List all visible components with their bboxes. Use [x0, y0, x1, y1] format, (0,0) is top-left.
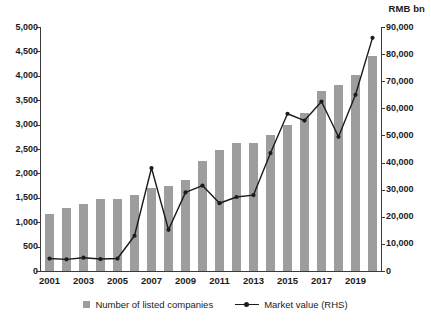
- left-axis-tick-label: 3,500: [15, 96, 38, 105]
- right-axis-tick-mark: [381, 244, 385, 245]
- left-axis-tick-label: 1,000: [15, 218, 38, 227]
- data-point-marker: [81, 256, 85, 260]
- x-axis-line: [40, 271, 382, 272]
- right-axis-tick-label: 10,000: [386, 239, 414, 248]
- left-axis-tick-mark: [36, 271, 40, 272]
- left-axis-tick-mark: [36, 125, 40, 126]
- x-axis-tick-label: 2017: [306, 276, 338, 286]
- left-axis-tick-mark: [36, 149, 40, 150]
- right-axis-tick-label: 90,000: [386, 23, 414, 32]
- data-point-marker: [166, 228, 170, 232]
- left-axis-tick-label: 4,000: [15, 71, 38, 80]
- right-axis-tick-label: 60,000: [386, 104, 414, 113]
- legend-label-market-value: Market value (RHS): [264, 299, 347, 310]
- chart-container: RMB bn 05001,0001,5002,0002,5003,0003,50…: [0, 0, 431, 326]
- x-axis-tick-label: 2011: [204, 276, 236, 286]
- data-point-marker: [302, 118, 306, 122]
- legend-item-market-value: Market value (RHS): [235, 299, 347, 310]
- market-value-polyline: [50, 38, 373, 260]
- data-point-marker: [149, 166, 153, 170]
- data-point-marker: [47, 256, 51, 260]
- plot-area: [41, 27, 381, 271]
- left-axis-tick-label: 2,000: [15, 169, 38, 178]
- right-axis-tick-mark: [381, 135, 385, 136]
- left-axis-tick-mark: [36, 76, 40, 77]
- x-axis-tick-label: 2005: [102, 276, 134, 286]
- right-axis-tick-label: 40,000: [386, 158, 414, 167]
- left-axis-tick-label: 1,500: [15, 193, 38, 202]
- right-axis-tick-mark: [381, 190, 385, 191]
- data-point-marker: [234, 195, 238, 199]
- right-axis-line: [381, 27, 382, 272]
- data-point-marker: [64, 257, 68, 261]
- data-point-marker: [268, 151, 272, 155]
- right-axis-tick-label: 0: [386, 267, 391, 276]
- x-axis-tick-label: 2003: [68, 276, 100, 286]
- bar-swatch-icon: [83, 301, 90, 308]
- right-axis-tick-mark: [381, 108, 385, 109]
- line-series-market-value: [41, 27, 381, 271]
- line-marker-icon: [235, 301, 259, 309]
- x-axis-tick-label: 2001: [34, 276, 66, 286]
- left-axis-tick-label: 5,000: [15, 23, 38, 32]
- x-axis-tick-label: 2009: [170, 276, 202, 286]
- right-axis-tick-mark: [381, 27, 385, 28]
- right-axis-tick-label: 30,000: [386, 185, 414, 194]
- right-axis-tick-mark: [381, 54, 385, 55]
- right-axis-tick-mark: [381, 81, 385, 82]
- data-point-marker: [132, 234, 136, 238]
- x-axis-tick-label: 2019: [340, 276, 372, 286]
- data-point-marker: [251, 193, 255, 197]
- right-axis-tick-label: 70,000: [386, 77, 414, 86]
- left-axis-tick-mark: [36, 222, 40, 223]
- data-point-marker: [285, 112, 289, 116]
- legend-item-listed-companies: Number of listed companies: [83, 299, 213, 310]
- chart-legend: Number of listed companies Market value …: [0, 299, 431, 310]
- left-axis-tick-label: 3,000: [15, 120, 38, 129]
- x-axis-tick-label: 2013: [238, 276, 270, 286]
- data-point-marker: [319, 99, 323, 103]
- data-point-marker: [353, 93, 357, 97]
- data-point-marker: [336, 135, 340, 139]
- left-axis-tick-label: 2,500: [15, 145, 38, 154]
- legend-label-listed-companies: Number of listed companies: [95, 299, 213, 310]
- x-axis-tick-label: 2007: [136, 276, 168, 286]
- right-axis-tick-label: 80,000: [386, 50, 414, 59]
- left-axis-tick-mark: [36, 100, 40, 101]
- right-axis-tick-mark: [381, 271, 385, 272]
- left-axis-tick-mark: [36, 247, 40, 248]
- right-axis-tick-label: 50,000: [386, 131, 414, 140]
- data-point-marker: [183, 190, 187, 194]
- left-axis-tick-label: 4,500: [15, 47, 38, 56]
- data-point-marker: [370, 36, 374, 40]
- left-axis-tick-mark: [36, 51, 40, 52]
- right-axis-tick-label: 20,000: [386, 212, 414, 221]
- left-axis-tick-mark: [36, 198, 40, 199]
- data-point-marker: [115, 256, 119, 260]
- data-point-marker: [98, 257, 102, 261]
- x-axis-tick-label: 2015: [272, 276, 304, 286]
- left-axis-tick-mark: [36, 27, 40, 28]
- right-axis-tick-mark: [381, 217, 385, 218]
- data-point-marker: [200, 184, 204, 188]
- data-point-marker: [217, 201, 221, 205]
- right-axis-title: RMB bn: [389, 3, 425, 14]
- market-value-markers: [47, 36, 374, 262]
- left-axis-tick-mark: [36, 173, 40, 174]
- right-axis-tick-mark: [381, 163, 385, 164]
